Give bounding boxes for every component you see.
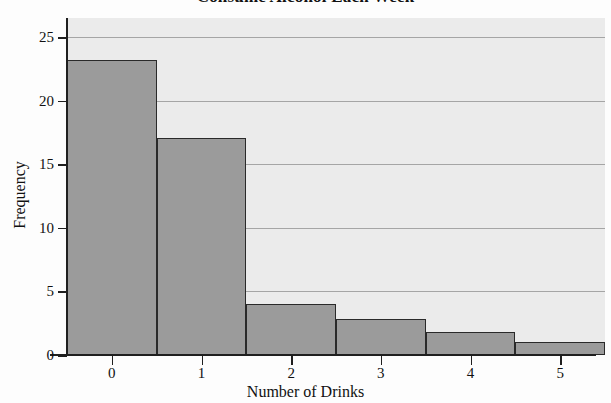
x-axis-tick [202,356,204,365]
y-axis-tick [58,164,67,166]
x-axis-tick [471,356,473,365]
bar [246,304,336,355]
x-axis-tick-label: 1 [182,366,222,381]
y-axis-tick-label: 20 [14,94,54,109]
plot-area [67,18,605,355]
x-axis-title: Number of Drinks [0,383,611,401]
x-axis-tick [291,356,293,365]
x-axis-tick-label: 0 [92,366,132,381]
x-axis-tick [381,356,383,365]
x-axis-line [50,354,596,356]
y-axis-title-text: Frequency [11,161,29,229]
y-axis-tick [58,355,67,357]
x-axis-tick-label: 4 [451,366,491,381]
bar [426,332,516,355]
y-axis-tick [58,291,67,293]
y-axis-tick-label: 5 [14,284,54,299]
y-axis-tick-label: 0 [14,348,54,363]
y-axis-tick-label: 25 [14,30,54,45]
bar [67,60,157,355]
chart-title: Consume Alcohol Each Week [0,0,611,7]
x-axis-tick-label: 3 [361,366,401,381]
y-axis-title: Frequency [2,110,38,280]
histogram-figure: Consume Alcohol Each Week 0510152025 012… [0,0,611,403]
x-axis-tick-label: 5 [540,366,580,381]
x-axis-tick [560,356,562,365]
y-axis-line [66,18,68,356]
y-axis-tick [58,37,67,39]
bar [336,319,426,355]
x-axis-tick [112,356,114,365]
bar [157,138,247,355]
y-axis-tick [58,228,67,230]
y-axis-tick [58,101,67,103]
x-axis-tick-label: 2 [271,366,311,381]
bar-series [67,18,605,355]
